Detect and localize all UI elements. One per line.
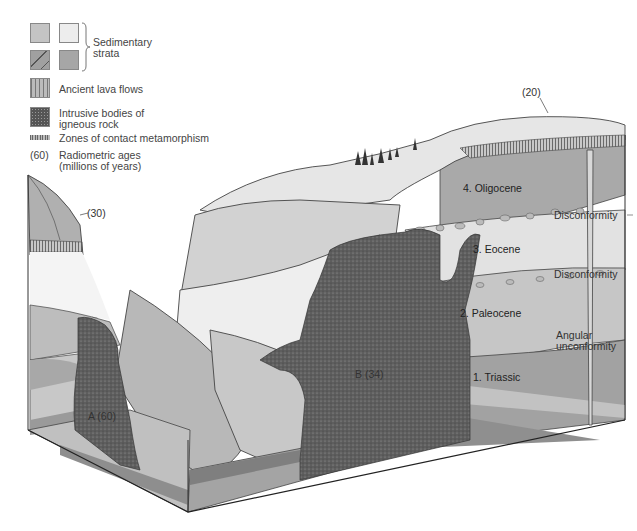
contact-disconformity-2: Disconformity (554, 269, 618, 280)
intrusion-b-label: B (34) (355, 368, 384, 380)
unit-paleocene: 2. Paleocene (460, 307, 521, 319)
unit-oligocene: 4. Oligocene (463, 182, 522, 194)
contact-disconformity-1: Disconformity (554, 210, 618, 221)
unit-eocene: 3. Eocene (473, 243, 520, 255)
intrusion-a-label: A (60) (88, 410, 116, 422)
unit-triassic: 1. Triassic (473, 371, 520, 383)
age-label-30: (30) (87, 207, 106, 219)
contact-angular-2: unconformity (556, 341, 616, 352)
block-diagram (0, 0, 637, 531)
age-label-20: (20) (522, 86, 541, 98)
